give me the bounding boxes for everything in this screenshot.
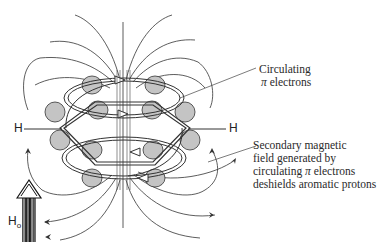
ring-current-diagram: H H Ho Circulating π electrons Secondary… [0,0,381,250]
central-field-lines [117,70,130,190]
diagram-artwork [0,0,381,250]
applied-field-label: Ho [8,214,21,230]
secondary-line3-post: electrons [311,165,355,177]
secondary-line3-pre: circulating [253,165,305,177]
field-subscript: o [17,221,21,230]
magnetic-field-lines [24,15,235,240]
circulating-line2: π electrons [259,76,311,89]
secondary-line3: circulating π electrons [253,165,376,178]
circulating-line2-text: electrons [267,76,311,88]
circulating-line1: Circulating [259,63,311,76]
hydrogen-right: H [229,121,238,135]
hydrogen-left: H [14,121,23,135]
secondary-field-label: Secondary magnetic field generated by ci… [253,139,376,191]
field-symbol: H [8,214,17,228]
circulating-electrons-label: Circulating π electrons [259,63,311,89]
applied-field-arrow [17,180,41,244]
secondary-line2: field generated by [253,152,376,165]
secondary-line1: Secondary magnetic [253,139,376,152]
ring-current-loops [62,78,186,179]
secondary-line4: deshields aromatic protons [253,178,376,191]
